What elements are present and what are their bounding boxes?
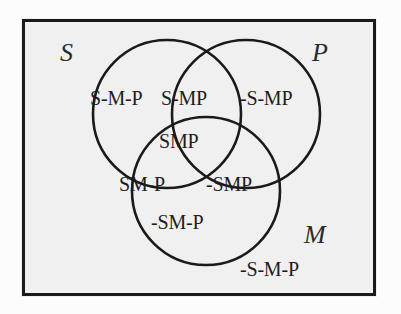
region-label-s-and-m-not-p: S-MP [161, 88, 207, 108]
region-label-outside-all: -S-M-P [240, 259, 299, 279]
region-label-s-and-m-not-p-lower: SM-P [119, 174, 165, 194]
region-label-p-only: -S-MP [240, 88, 292, 108]
set-label-s: S [60, 40, 73, 66]
region-label-s-only: S-M-P [90, 88, 142, 108]
venn-diagram-figure: S P M S-M-P S-MP -S-MP SMP SM-P -SMP -SM… [0, 0, 401, 314]
region-label-m-only: -SM-P [151, 212, 203, 232]
set-label-m: M [304, 222, 326, 248]
set-label-p: P [312, 40, 328, 66]
region-label-all-three: SMP [159, 131, 198, 151]
region-label-m-and-p-not-s: -SMP [206, 174, 252, 194]
